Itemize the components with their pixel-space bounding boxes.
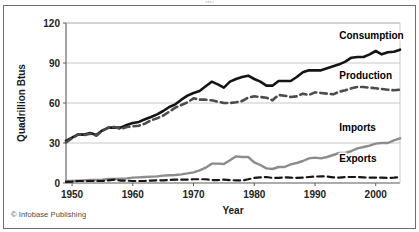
figure-container: gy 0306090120195019601970198019902000Yea… xyxy=(0,0,419,232)
x-tick-label-2000: 2000 xyxy=(365,189,388,200)
y-tick-label-30: 30 xyxy=(49,138,61,149)
x-tick-label-1960: 1960 xyxy=(122,189,145,200)
x-tick-label-1990: 1990 xyxy=(304,189,327,200)
y-tick-label-90: 90 xyxy=(49,58,61,69)
x-tick-label-1970: 1970 xyxy=(182,189,205,200)
series-label-consumption: Consumption xyxy=(339,30,403,41)
x-tick-label-1950: 1950 xyxy=(61,189,84,200)
y-tick-label-120: 120 xyxy=(43,18,60,29)
line-chart: 0306090120195019601970198019902000YearQu… xyxy=(3,5,416,229)
x-tick-label-1980: 1980 xyxy=(243,189,266,200)
series-label-production: Production xyxy=(339,70,392,81)
y-axis-title: Quadrillion Btus xyxy=(16,64,27,142)
cropped-title-fragment: gy xyxy=(0,0,419,3)
y-tick-label-60: 60 xyxy=(49,98,61,109)
x-axis-title: Year xyxy=(222,205,243,216)
y-tick-label-0: 0 xyxy=(54,178,60,189)
publisher-credit: © Infobase Publishing xyxy=(11,210,86,219)
series-label-imports: Imports xyxy=(339,122,376,133)
series-label-exports: Exports xyxy=(339,153,377,164)
